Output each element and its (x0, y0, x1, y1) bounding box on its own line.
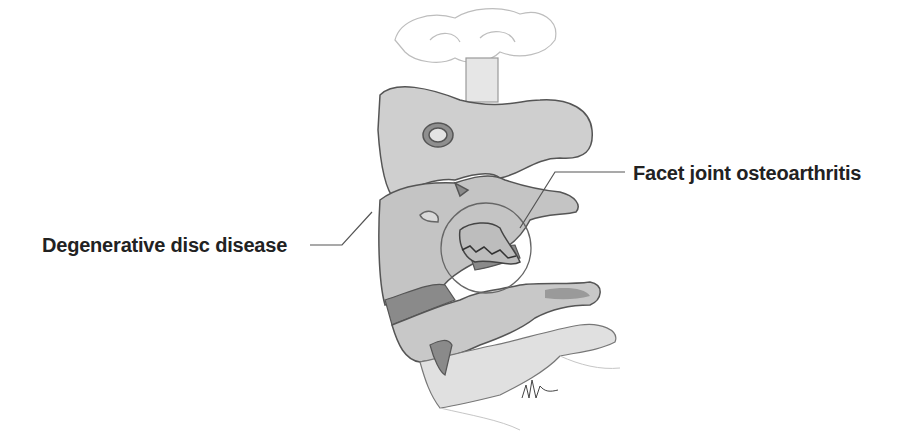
spine-illustration (0, 0, 921, 444)
artist-signature (522, 380, 558, 398)
upper-vertebra-outline (395, 9, 556, 63)
dens (466, 58, 498, 102)
label-facet-joint-osteoarthritis: Facet joint osteoarthritis (633, 162, 861, 185)
label-degenerative-disc-disease: Degenerative disc disease (42, 234, 287, 257)
